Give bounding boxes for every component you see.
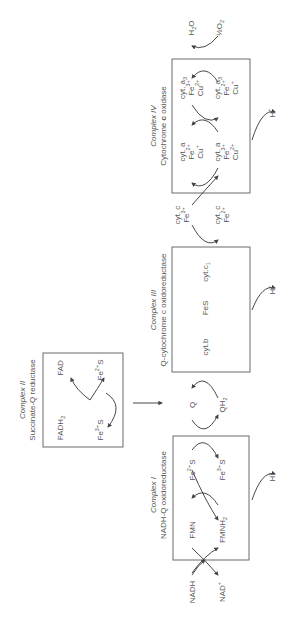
fe: Fe bbox=[218, 471, 227, 480]
fe: Fe bbox=[222, 150, 231, 159]
cu: Cu bbox=[196, 149, 205, 159]
fe: Fe bbox=[96, 431, 105, 440]
sub: 2 bbox=[219, 20, 225, 23]
fmnh: FMNH bbox=[218, 520, 227, 543]
sup: + bbox=[216, 582, 222, 585]
sup: 2+ bbox=[220, 207, 226, 213]
subtitle-post: oxidase bbox=[159, 86, 168, 116]
nad: NAD bbox=[218, 585, 227, 602]
fes-oxidized-label: Fe3+S bbox=[96, 420, 105, 441]
sub: 2 bbox=[222, 517, 228, 520]
fes-label: FeS bbox=[201, 301, 210, 316]
fe: Fe bbox=[182, 213, 191, 222]
sub: 2 bbox=[222, 397, 228, 400]
cyt-b-label: cyt.b bbox=[201, 339, 210, 356]
subtitle-bold: c bbox=[159, 116, 168, 120]
sup: 3+ bbox=[220, 144, 226, 150]
sub: 1 bbox=[205, 262, 211, 265]
fadh: FADH bbox=[56, 419, 65, 440]
sup: 3+ bbox=[180, 207, 186, 213]
fe: Fe bbox=[187, 86, 196, 95]
proton-iv: H+ bbox=[268, 109, 277, 118]
o: O bbox=[187, 20, 196, 26]
proton-iii: H+ bbox=[268, 286, 277, 295]
fe: Fe bbox=[222, 213, 231, 222]
s: S bbox=[96, 420, 105, 425]
fe: Fe bbox=[222, 86, 231, 95]
nad-label: NAD+ bbox=[218, 582, 227, 602]
qh2-label: QH2 bbox=[218, 397, 227, 412]
qh: QH bbox=[218, 401, 227, 413]
sup: + bbox=[194, 145, 200, 148]
sup: + bbox=[266, 473, 272, 476]
complex-iii-title: Complex III bbox=[149, 290, 158, 330]
cyt-c1-label: cyt.c1 bbox=[201, 262, 210, 282]
fes-reduced-label: Fe2+S bbox=[96, 360, 105, 381]
sup: 2+ bbox=[186, 465, 192, 471]
sup: + bbox=[266, 109, 272, 112]
o: ½O bbox=[215, 23, 224, 36]
s: S bbox=[188, 460, 197, 465]
complex-i-subtitle: NADH-Q oxidoreductase bbox=[159, 451, 168, 539]
complex-iii-subtitle: Q-cytochrome c oxidoreductase bbox=[159, 254, 168, 367]
h: H bbox=[268, 476, 277, 482]
sup: + bbox=[229, 81, 235, 84]
diagram-lines bbox=[0, 0, 293, 626]
sup: 2+ bbox=[194, 80, 200, 86]
h: H bbox=[268, 112, 277, 118]
sup: 2+ bbox=[229, 144, 235, 150]
complex-i-box bbox=[173, 436, 249, 560]
fmnh2-label: FMNH2 bbox=[218, 517, 227, 543]
cu: Cu bbox=[231, 85, 240, 95]
sup: 2+ bbox=[94, 365, 100, 371]
sup: 3+ bbox=[94, 425, 100, 431]
fadh2-label: FADH2 bbox=[56, 416, 65, 440]
h: H bbox=[268, 289, 277, 295]
s: S bbox=[218, 460, 227, 465]
h: H bbox=[187, 30, 196, 36]
q-label: Q bbox=[188, 402, 197, 408]
oxygen-label: ½O2 bbox=[215, 20, 224, 36]
complex-ii-subtitle: Succinate-Q reductase bbox=[28, 359, 37, 440]
sub: 2 bbox=[60, 416, 66, 419]
electron-transport-chain-diagram: Complex IV Cytochrome c oxidase H2O ½O2 … bbox=[0, 0, 293, 626]
cyt-a3-oxidized: cyt. a3Fe3+Cu2+ bbox=[178, 77, 205, 99]
fes-3plus-label: Fe3+S bbox=[218, 460, 227, 481]
cu: Cu bbox=[231, 150, 240, 160]
sup: 3+ bbox=[185, 80, 191, 86]
water-label: H2O bbox=[187, 20, 196, 35]
complex-iv-title: Complex IV bbox=[149, 105, 158, 146]
cyt-c-oxidized: cyt. cFe3+ bbox=[173, 206, 191, 225]
fad-label: FAD bbox=[56, 360, 65, 376]
s: S bbox=[96, 360, 105, 365]
complex-ii-title: Complex II bbox=[18, 381, 27, 419]
cyt-c-reduced: cyt. cFe2+ bbox=[213, 206, 231, 225]
fes-2plus-label: Fe2+S bbox=[188, 460, 197, 481]
sub: 2 bbox=[191, 27, 197, 30]
fe: Fe bbox=[187, 150, 196, 159]
cu: Cu bbox=[196, 86, 205, 96]
sup: 3+ bbox=[216, 465, 222, 471]
cyt-a-oxidized: cyt. aFe3+Cu2+ bbox=[213, 142, 240, 161]
sup: 2+ bbox=[185, 144, 191, 150]
sup: + bbox=[266, 286, 272, 289]
complex-i-title: Complex I bbox=[149, 477, 158, 513]
sup: 2+ bbox=[220, 80, 226, 86]
fe: Fe bbox=[96, 371, 105, 380]
complex-iv-subtitle: Cytochrome c oxidase bbox=[159, 86, 168, 166]
cyt-a-reduced: cyt. aFe2+Cu+ bbox=[178, 142, 205, 161]
name: cyt.c bbox=[201, 265, 210, 281]
proton-i: H+ bbox=[268, 473, 277, 482]
cyt-a3-reduced: cyt. a3Fe2+Cu+ bbox=[213, 77, 240, 99]
fmn-label: FMN bbox=[188, 521, 197, 538]
subtitle-pre: Cytochrome bbox=[159, 120, 168, 165]
fe: Fe bbox=[188, 471, 197, 480]
nadh-label: NADH bbox=[188, 581, 197, 604]
